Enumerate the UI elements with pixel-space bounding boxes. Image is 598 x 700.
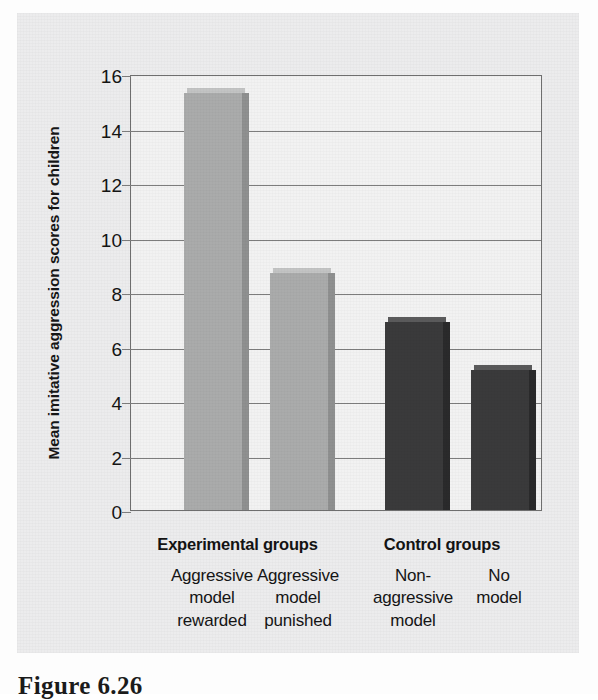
y-axis-tick-label: 6 — [111, 339, 122, 358]
y-axis-tick-label: 4 — [111, 394, 122, 413]
category-label-line: model — [439, 587, 559, 609]
y-axis-tick-label: 2 — [111, 448, 122, 467]
bar-top-face — [273, 268, 331, 273]
category-label-aggressive-model-punished: Aggressivemodelpunished — [238, 565, 358, 632]
figure-caption: Figure 6.26 — [18, 672, 143, 700]
bar-top-face — [187, 88, 245, 93]
y-axis-tick-mark — [122, 240, 131, 241]
y-axis-tick-mark — [122, 349, 131, 350]
bar-top-face — [388, 317, 446, 322]
plot-area: 1614121086420 — [130, 75, 542, 511]
category-label-line: punished — [238, 610, 358, 632]
group-header-experimental: Experimental groups — [130, 535, 345, 554]
category-label-line: Aggressive — [238, 565, 358, 587]
figure-panel: Mean imitative aggression scores for chi… — [17, 13, 579, 653]
bar-aggressive-model-rewarded — [184, 93, 242, 510]
y-axis-title: Mean imitative aggression scores for chi… — [41, 73, 67, 513]
y-axis-tick-mark — [122, 458, 131, 459]
y-axis-tick-label: 0 — [111, 503, 122, 522]
y-axis-tick-mark — [122, 131, 131, 132]
y-axis-tick-mark — [122, 185, 131, 186]
bar-aggressive-model-punished — [270, 273, 328, 510]
y-axis-tick-label: 16 — [101, 67, 122, 86]
bar-side-face — [529, 370, 536, 510]
bar-non-aggressive-model — [385, 322, 443, 510]
bar-front-face — [270, 273, 328, 510]
y-axis-tick-label: 14 — [101, 121, 122, 140]
group-header-control: Control groups — [342, 535, 542, 554]
y-axis-tick-label: 12 — [101, 176, 122, 195]
bar-front-face — [184, 93, 242, 510]
y-axis-tick-label: 10 — [101, 230, 122, 249]
category-label-no-model: Nomodel — [439, 565, 559, 610]
y-axis-tick-mark — [122, 294, 131, 295]
y-axis-tick-label: 8 — [111, 285, 122, 304]
bar-front-face — [471, 370, 529, 510]
bar-side-face — [242, 93, 249, 510]
y-axis-tick-mark — [122, 403, 131, 404]
bar-side-face — [328, 273, 335, 510]
bar-front-face — [385, 322, 443, 510]
category-label-line: model — [353, 610, 473, 632]
y-axis-tick-mark — [122, 512, 131, 513]
category-label-line: No — [439, 565, 559, 587]
y-axis-tick-mark — [122, 76, 131, 77]
category-label-line: model — [238, 587, 358, 609]
bar-no-model — [471, 370, 529, 510]
bar-side-face — [443, 322, 450, 510]
bar-top-face — [474, 365, 532, 370]
